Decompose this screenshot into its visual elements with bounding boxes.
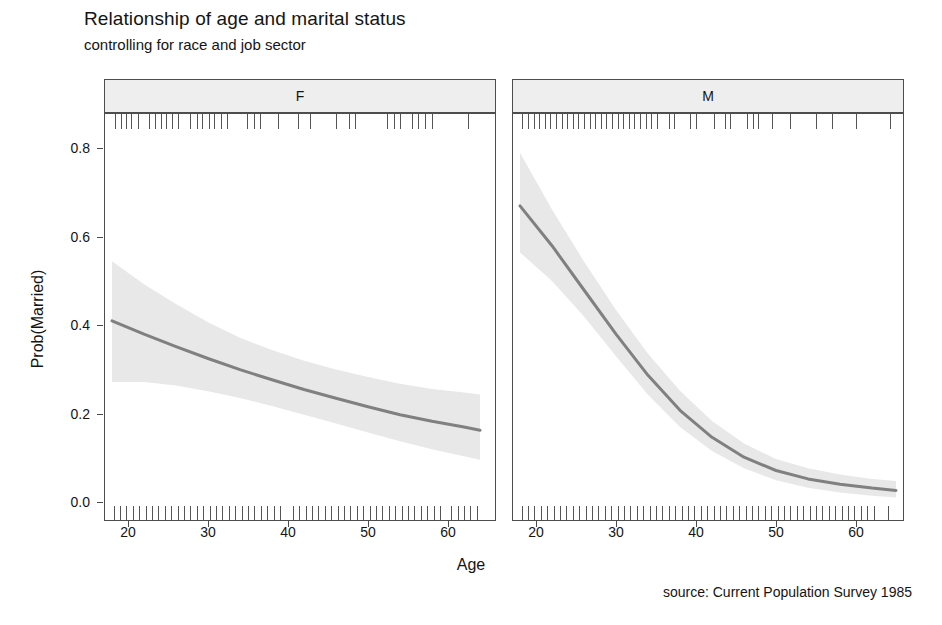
rug-mark-bottom [152, 506, 153, 520]
rug-mark-bottom [267, 506, 268, 520]
rug-mark-bottom [554, 506, 555, 520]
rug-mark-bottom [637, 506, 638, 520]
rug-mark-top [651, 114, 652, 129]
x-tick-label: 60 [836, 524, 876, 540]
rug-mark-bottom [470, 506, 471, 520]
rug-mark-bottom [274, 506, 275, 520]
rug-mark-bottom [222, 506, 223, 520]
x-tick-label: 20 [108, 524, 148, 540]
rug-mark-top [556, 114, 557, 129]
y-tick-label: 0.6 [44, 229, 90, 245]
rug-mark-bottom [280, 506, 281, 520]
rug-mark-bottom [810, 506, 811, 520]
panel-f: F [104, 79, 496, 521]
rug-mark-top [278, 114, 279, 129]
x-tick-label: 40 [676, 524, 716, 540]
rug-mark-top [522, 114, 523, 129]
rug-mark-top [832, 114, 833, 129]
rug-mark-bottom [120, 506, 121, 520]
rug-mark-top [400, 114, 401, 129]
rug-mark-bottom [261, 506, 262, 520]
rug-mark-bottom [650, 506, 651, 520]
rug-mark-bottom [784, 506, 785, 520]
rug-mark-top [534, 114, 535, 129]
rug-mark-bottom [427, 506, 428, 520]
source-caption: source: Current Population Survey 1985 [0, 584, 912, 600]
rug-mark-bottom [363, 506, 364, 520]
confidence-band [520, 153, 896, 498]
rug-mark-bottom [560, 506, 561, 520]
rug-mark-bottom [210, 506, 211, 520]
rug-mark-top [772, 114, 773, 129]
rug-mark-top [595, 114, 596, 129]
rug-mark-top [178, 114, 179, 129]
x-tick-label: 50 [348, 524, 388, 540]
rug-mark-bottom [752, 506, 753, 520]
rug-mark-top [394, 114, 395, 129]
x-tick-label: 20 [516, 524, 556, 540]
rug-mark-bottom [464, 506, 465, 520]
rug-mark-top [539, 114, 540, 129]
rug-mark-bottom [178, 506, 179, 520]
y-tick-label: 0.2 [44, 406, 90, 422]
rug-mark-top [131, 114, 132, 129]
x-tick-label: 30 [188, 524, 228, 540]
rug-mark-bottom [848, 506, 849, 520]
y-tick-label: 0.4 [44, 317, 90, 333]
rug-mark-bottom [630, 506, 631, 520]
rug-mark-bottom [184, 506, 185, 520]
y-tick-label: 0.0 [44, 494, 90, 510]
rug-mark-bottom [579, 506, 580, 520]
rug-mark-top [115, 114, 116, 129]
rug-mark-bottom [344, 506, 345, 520]
rug-mark-top [747, 114, 748, 129]
rug-mark-top [209, 114, 210, 129]
rug-mark-top [260, 114, 261, 129]
rug-mark-top [412, 114, 413, 129]
rug-mark-top [190, 114, 191, 129]
rug-mark-bottom [842, 506, 843, 520]
rug-mark-bottom [318, 506, 319, 520]
x-tick-label: 60 [428, 524, 468, 540]
rug-mark-top [646, 114, 647, 129]
confidence-band [112, 261, 480, 460]
rug-mark-top [669, 114, 670, 129]
rug-mark-top [856, 114, 857, 129]
rug-mark-top [567, 114, 568, 129]
rug-mark-bottom [829, 506, 830, 520]
rug-mark-top [247, 114, 248, 129]
rug-mark-top [562, 114, 563, 129]
rug-mark-bottom [682, 506, 683, 520]
rug-mark-bottom [440, 506, 441, 520]
rug-mark-top [227, 114, 228, 129]
rug-mark-bottom [765, 506, 766, 520]
y-tick-mark [97, 502, 103, 503]
rug-mark-top [573, 114, 574, 129]
rug-mark-top [674, 114, 675, 129]
plot-area-f [105, 114, 495, 520]
rug-mark-bottom [408, 506, 409, 520]
rug-mark-bottom [254, 506, 255, 520]
rug-mark-bottom [395, 506, 396, 520]
rug-mark-bottom [797, 506, 798, 520]
panel-strip-m: M [512, 79, 904, 113]
rug-mark-bottom [357, 506, 358, 520]
rug-mark-bottom [203, 506, 204, 520]
chart-subtitle: controlling for race and job sector [84, 36, 306, 53]
rug-mark-bottom [190, 506, 191, 520]
rug-mark-bottom [370, 506, 371, 520]
rug-mark-top [758, 114, 759, 129]
rug-mark-top [816, 114, 817, 129]
rug-mark-bottom [669, 506, 670, 520]
rug-mark-bottom [803, 506, 804, 520]
rug-mark-bottom [701, 506, 702, 520]
panel-m: M [512, 79, 904, 521]
panel-strip-label: M [702, 88, 714, 104]
rug-mark-bottom [477, 506, 478, 520]
rug-mark-bottom [854, 506, 855, 520]
rug-mark-bottom [451, 506, 452, 520]
rug-mark-bottom [790, 506, 791, 520]
rug-mark-bottom [624, 506, 625, 520]
rug-mark-bottom [402, 506, 403, 520]
rug-mark-bottom [216, 506, 217, 520]
